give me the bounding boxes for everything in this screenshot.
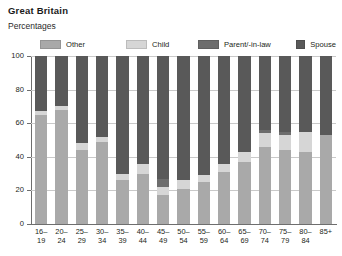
chart-subtitle: Percentages (8, 21, 56, 31)
chart-legend: OtherChildParent/-in-lawSpouse (40, 39, 336, 50)
bar-segment-child (116, 174, 128, 181)
bar-segment-other (198, 182, 210, 224)
bar-40–44 (137, 56, 149, 224)
bar-segment-other (137, 174, 149, 224)
bar-55–59 (198, 56, 210, 224)
bar-segment-parent-in-law (259, 130, 271, 133)
bar-segment-spouse (238, 56, 250, 152)
bar-20–24 (55, 56, 67, 224)
legend-item-spouse: Spouse (296, 39, 336, 50)
bar-series-group (31, 56, 336, 224)
legend-item-child: Child (126, 39, 198, 50)
x-axis-tick-label: 80– 84 (295, 227, 315, 245)
bar-segment-spouse (198, 56, 210, 175)
bar-segment-spouse (218, 56, 230, 164)
bar-segment-child (198, 175, 210, 182)
bar-50–54 (177, 56, 189, 224)
x-axis-line (31, 224, 337, 225)
x-axis-tick-label: 25– 29 (72, 227, 92, 245)
legend-swatch-spouse (296, 40, 305, 49)
x-axis-tick-label: 30– 34 (92, 227, 112, 245)
bar-segment-spouse (35, 56, 47, 111)
bar-segment-child (157, 187, 169, 195)
bar-25–29 (76, 56, 88, 224)
bar-segment-parent-in-law (157, 179, 169, 187)
y-tick-0 (27, 224, 31, 225)
bar-segment-child (259, 133, 271, 146)
bar-segment-other (238, 162, 250, 224)
bar-segment-other (96, 142, 108, 224)
y-axis-labels: 020406080100 (0, 56, 28, 225)
bar-75–79 (279, 56, 291, 224)
bar-segment-child (218, 164, 230, 172)
legend-label-spouse: Spouse (310, 40, 336, 49)
bar-65–69 (238, 56, 250, 224)
bar-segment-other (177, 189, 189, 224)
bar-segment-other (76, 150, 88, 224)
bar-segment-child (299, 132, 311, 152)
x-axis-tick-label: 85+ (316, 227, 336, 236)
bar-segment-spouse (177, 56, 189, 180)
bar-segment-child (35, 111, 47, 114)
x-axis-tick-label: 20– 24 (51, 227, 71, 245)
legend-swatch-child (126, 40, 147, 49)
x-axis-tick-label: 65– 69 (234, 227, 254, 245)
bar-segment-other (157, 195, 169, 224)
bar-16–19 (35, 56, 47, 224)
bar-segment-other (35, 115, 47, 224)
bar-segment-child (238, 152, 250, 162)
y-axis-tick-label: 20 (16, 185, 24, 194)
bar-segment-other (299, 152, 311, 224)
bar-segment-child (279, 135, 291, 150)
x-axis-labels: 16– 1920– 2425– 2930– 3435– 3940– 4445– … (31, 227, 336, 253)
bar-60–64 (218, 56, 230, 224)
plot-area (31, 56, 336, 224)
x-axis-tick-label: 50– 54 (173, 227, 193, 245)
bar-70–74 (259, 56, 271, 224)
chart-container: Great Britain Percentages OtherChildPare… (0, 0, 342, 256)
bar-segment-child (96, 137, 108, 142)
bar-80–84 (299, 56, 311, 224)
bar-segment-child (55, 106, 67, 109)
x-axis-tick-label: 70– 74 (255, 227, 275, 245)
legend-label-parent: Parent/-in-law (224, 40, 271, 49)
x-axis-tick-label: 35– 39 (112, 227, 132, 245)
legend-swatch-other (40, 40, 61, 49)
x-axis-tick-label: 40– 44 (133, 227, 153, 245)
bar-30–34 (96, 56, 108, 224)
bar-segment-child (177, 180, 189, 188)
legend-item-other: Other (40, 39, 126, 50)
y-axis-tick-label: 80 (16, 85, 24, 94)
x-axis-tick-label: 60– 64 (214, 227, 234, 245)
bar-segment-spouse (116, 56, 128, 174)
x-axis-tick-label: 16– 19 (31, 227, 51, 245)
bar-segment-spouse (320, 56, 332, 135)
x-axis-tick-label: 55– 59 (194, 227, 214, 245)
bar-segment-spouse (137, 56, 149, 164)
bar-segment-spouse (259, 56, 271, 130)
y-axis-tick-label: 0 (20, 219, 24, 228)
x-axis-tick-label: 45– 49 (153, 227, 173, 245)
bar-segment-spouse (279, 56, 291, 132)
bar-segment-spouse (76, 56, 88, 143)
bar-segment-other (55, 110, 67, 224)
bar-segment-other (218, 172, 230, 224)
bar-segment-other (279, 150, 291, 224)
x-axis-tick-label: 75– 79 (275, 227, 295, 245)
y-axis-tick-label: 60 (16, 118, 24, 127)
y-axis-tick-label: 40 (16, 152, 24, 161)
bar-segment-other (259, 147, 271, 224)
bar-segment-other (320, 135, 332, 224)
bar-45–49 (157, 56, 169, 224)
bar-segment-spouse (157, 56, 169, 179)
legend-swatch-parent (198, 40, 219, 49)
bar-segment-parent-in-law (279, 132, 291, 135)
bar-segment-spouse (299, 56, 311, 132)
bar-85+ (320, 56, 332, 224)
legend-item-parent: Parent/-in-law (198, 39, 296, 50)
bar-segment-child (76, 143, 88, 150)
y-axis-tick-label: 100 (11, 51, 24, 60)
bar-segment-spouse (55, 56, 67, 106)
bar-35–39 (116, 56, 128, 224)
legend-label-other: Other (66, 40, 85, 49)
